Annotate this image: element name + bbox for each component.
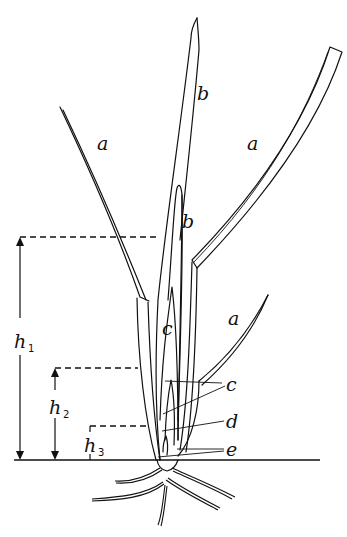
label-callout-c: c xyxy=(226,373,237,395)
leaf-lower-right xyxy=(178,295,268,456)
label-leaf-lower: a xyxy=(228,307,239,329)
leaf-right xyxy=(180,47,342,452)
roots xyxy=(92,468,235,526)
label-leaf-right: a xyxy=(247,132,258,154)
label-h2: h 2 xyxy=(49,396,69,420)
leaf-left xyxy=(60,107,160,460)
measurement-dashes xyxy=(20,237,158,426)
blade-inner xyxy=(168,185,182,440)
label-blade-inner: b xyxy=(182,210,194,232)
label-sheath-c: c xyxy=(162,317,173,339)
grass-plant-diagram: a a a b b c c d e h 1 h 2 h 3 xyxy=(0,0,347,537)
svg-text:3: 3 xyxy=(98,447,104,458)
label-blade-top: b xyxy=(197,82,209,104)
svg-text:h: h xyxy=(49,396,61,418)
svg-text:2: 2 xyxy=(63,409,69,420)
label-callout-d: d xyxy=(226,410,238,432)
svg-text:h: h xyxy=(84,434,96,456)
svg-text:1: 1 xyxy=(28,343,34,354)
label-callout-e: e xyxy=(226,438,237,460)
label-leaf-left: a xyxy=(97,132,108,154)
label-h3: h 3 xyxy=(84,434,104,458)
label-h1: h 1 xyxy=(14,330,34,354)
svg-text:h: h xyxy=(14,330,26,352)
